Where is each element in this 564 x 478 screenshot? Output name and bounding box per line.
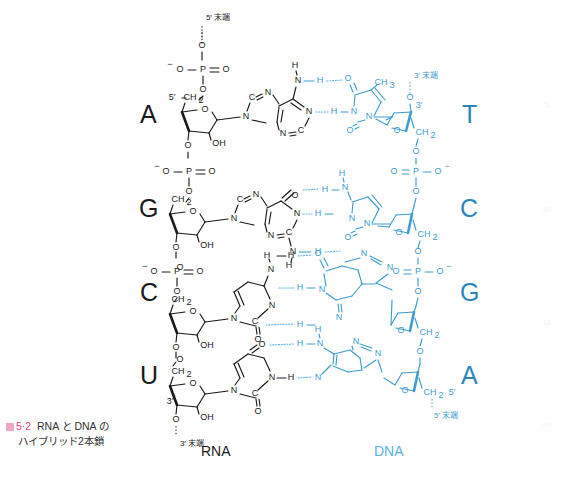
svg-text:H: H (317, 75, 324, 85)
svg-text:O: O (254, 406, 261, 416)
hydrogen-bonds-G-C: H H H (299, 184, 340, 256)
rna-5prime-end-text: 5′ 末端 (206, 12, 230, 22)
svg-text:O: O (401, 385, 408, 395)
svg-text:−: − (167, 59, 172, 69)
svg-text:O: O (172, 342, 179, 352)
rna-phosphate-4: O (176, 352, 184, 364)
base-adenine-4: N H N N N (315, 324, 382, 382)
svg-text:H: H (292, 60, 299, 70)
svg-text:O: O (176, 354, 183, 364)
svg-text:3: 3 (389, 80, 394, 90)
svg-text:O: O (201, 104, 208, 114)
svg-text:C: C (249, 92, 256, 102)
svg-text:CH: CH (172, 366, 185, 376)
svg-text:O: O (436, 266, 443, 276)
base-guanine-3: O N N N N (314, 248, 393, 322)
svg-text:H: H (322, 184, 329, 194)
svg-text:CH: CH (416, 127, 429, 137)
svg-text:H: H (288, 250, 295, 260)
svg-text:5′: 5′ (169, 92, 176, 102)
svg-text:O: O (222, 64, 229, 74)
margin-number-5: 5 (544, 100, 548, 109)
svg-text:O: O (397, 325, 404, 335)
rna-phosphate-2: P O − O O (154, 152, 215, 202)
svg-text:P: P (186, 166, 192, 176)
rna-base-letter-A: A (140, 102, 157, 127)
svg-text:2: 2 (438, 390, 443, 400)
svg-text:O: O (199, 84, 206, 94)
svg-text:C: C (286, 227, 293, 237)
margin-number-20: 20 (542, 420, 551, 429)
svg-text:N: N (351, 106, 358, 116)
basepair-unit-A-T: 5′ 末端 O P O − O O 5′ CH 2 O (167, 12, 438, 150)
svg-text:O: O (406, 92, 413, 102)
svg-text:N: N (295, 75, 302, 85)
svg-text:O: O (189, 206, 196, 216)
svg-text:−: − (154, 161, 159, 171)
svg-text:3′: 3′ (167, 396, 174, 406)
svg-text:N: N (231, 385, 238, 395)
svg-text:N: N (319, 284, 326, 294)
svg-text:O: O (395, 227, 402, 237)
svg-text:O: O (390, 166, 397, 176)
base-uracil-4: N N C O O (231, 339, 276, 416)
dna-base-letter-C: C (460, 196, 478, 221)
svg-text:N: N (294, 208, 301, 218)
svg-text:3′: 3′ (416, 100, 423, 110)
svg-text:O: O (414, 246, 421, 256)
svg-text:O: O (434, 166, 441, 176)
svg-text:N: N (269, 300, 276, 310)
svg-text:H: H (297, 282, 304, 292)
basepair-unit-G-C: P O − O O CH 2 O OH O (154, 146, 449, 270)
dna-base-letter-A: A (461, 363, 478, 388)
svg-text:N: N (342, 182, 349, 192)
svg-text:O: O (412, 146, 419, 156)
svg-text:O: O (412, 186, 419, 196)
dna-phosphate-2: O P O O − O (392, 246, 451, 306)
figure-caption: 5·2 RNA と DNA の ハイブリッド2本鎖 (6, 419, 196, 449)
svg-text:O: O (393, 125, 400, 135)
svg-text:2: 2 (432, 232, 437, 242)
dna-deoxyribose-3: O CH 2 (391, 300, 440, 346)
svg-text:H: H (339, 168, 346, 178)
dna-deoxyribose-2: O CH 2 (378, 206, 438, 248)
svg-text:N: N (268, 264, 275, 274)
dna-3prime-end-label: 3′ 末端 (410, 70, 438, 94)
margin-number-15: 15 (542, 318, 551, 327)
svg-text:O: O (172, 242, 179, 252)
svg-text:N: N (336, 312, 343, 322)
svg-text:O: O (150, 266, 157, 276)
svg-text:C: C (298, 125, 305, 135)
dna-strand-label: DNA (374, 443, 404, 459)
svg-text:CH: CH (172, 294, 185, 304)
svg-text:O: O (176, 64, 183, 74)
svg-text:H: H (315, 208, 322, 218)
svg-text:CH: CH (420, 327, 433, 337)
svg-text:N: N (315, 372, 322, 382)
rna-phosphate-1: O P O − O O (167, 26, 229, 100)
svg-text:CH: CH (418, 229, 431, 239)
svg-text:N: N (353, 336, 360, 346)
base-adenine-1: N C N N C N N H (243, 60, 313, 138)
svg-text:CH: CH (424, 387, 437, 397)
basepair-unit-C-G: P O − O O O CH 2 O OH O (142, 246, 451, 352)
svg-text:N: N (253, 189, 260, 199)
svg-text:OH: OH (200, 340, 214, 350)
svg-text:O: O (208, 166, 215, 176)
svg-text:P: P (415, 266, 421, 276)
svg-text:N: N (243, 111, 250, 121)
svg-text:−: − (446, 261, 451, 271)
svg-text:O: O (392, 266, 399, 276)
svg-text:O: O (344, 232, 351, 242)
svg-text:N: N (280, 128, 287, 138)
svg-text:N: N (268, 230, 275, 240)
rna-ribose-2: CH 2 O OH O (170, 194, 228, 252)
svg-text:H: H (331, 106, 338, 116)
svg-text:OH: OH (200, 240, 214, 250)
caption-number: 5·2 (16, 420, 31, 432)
rna-base-letter-C: C (140, 280, 158, 305)
rna-ribose-1: 5′ CH 2 O OH O (169, 92, 240, 150)
svg-text:5′: 5′ (449, 387, 456, 397)
svg-text:2: 2 (434, 330, 439, 340)
hydrogen-bonds-U-A: H H (270, 338, 315, 382)
